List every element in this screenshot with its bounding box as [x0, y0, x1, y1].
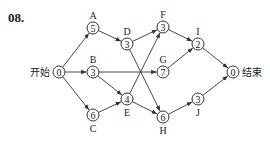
node-duration: 0	[231, 67, 236, 78]
node-J: 3J	[192, 93, 204, 118]
edge-start-to-C	[63, 77, 89, 110]
node-B: 3B	[87, 54, 99, 78]
start-label: 开始	[30, 66, 50, 78]
node-label: H	[159, 125, 166, 136]
node-duration: 7	[161, 67, 166, 78]
node-label: E	[124, 107, 130, 118]
node-duration: 3	[161, 22, 166, 33]
node-end: 0结束	[227, 66, 262, 79]
node-duration: 2	[196, 39, 201, 50]
node-label: A	[89, 10, 97, 21]
node-I: 2I	[192, 26, 204, 50]
node-H: 6H	[157, 111, 169, 136]
activity-network-diagram: 0开始5A3B6C3D4E3F7G6H2I3J0结束	[0, 0, 270, 143]
node-label: I	[196, 26, 199, 37]
edge-E-to-H	[132, 102, 157, 114]
node-duration: 0	[57, 67, 62, 78]
node-label: D	[123, 26, 130, 37]
edge-D-to-H	[130, 49, 160, 111]
node-label: C	[90, 123, 97, 134]
node-duration: 3	[125, 39, 130, 50]
node-E: 4E	[121, 93, 133, 118]
node-label: B	[90, 54, 97, 65]
end-label: 结束	[242, 66, 262, 78]
edge-I-to-end	[203, 48, 228, 68]
edge-J-to-end	[203, 76, 228, 95]
node-duration: 3	[91, 67, 96, 78]
edge-A-to-D	[98, 31, 121, 42]
node-start: 0开始	[30, 66, 65, 79]
node-duration: 4	[125, 94, 130, 105]
node-F: 3F	[157, 9, 169, 33]
edge-G-to-I	[168, 48, 193, 68]
edge-E-to-F	[130, 33, 160, 94]
edge-H-to-J	[168, 102, 192, 114]
node-G: 7G	[157, 54, 169, 78]
edge-B-to-E	[98, 76, 122, 95]
edge-F-to-I	[168, 30, 192, 42]
node-A: 5A	[87, 10, 99, 34]
node-label: F	[160, 9, 166, 20]
node-duration: 6	[161, 112, 166, 123]
node-duration: 3	[196, 94, 201, 105]
node-label: J	[196, 107, 200, 118]
edge-C-to-E	[98, 102, 121, 113]
node-D: 3D	[121, 26, 133, 50]
node-duration: 5	[91, 23, 96, 34]
node-label: G	[159, 54, 166, 65]
node-duration: 6	[91, 110, 96, 121]
edge-D-to-F	[132, 30, 157, 42]
node-C: 6C	[87, 109, 99, 134]
nodes-layer: 0开始5A3B6C3D4E3F7G6H2I3J0结束	[30, 9, 262, 136]
edge-start-to-A	[63, 33, 89, 67]
